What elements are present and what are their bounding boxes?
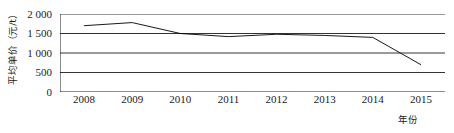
data-series-line [84,23,421,65]
y-axis-tick-label: 1 500 [10,28,52,39]
y-axis-tick-label: 2 000 [10,9,52,20]
x-axis-title: 年份 [398,112,418,126]
x-axis-tick-label: 2009 [107,94,157,105]
x-axis-tick-label: 2014 [348,94,398,105]
x-axis-tick-label: 2011 [203,94,253,105]
x-axis-tick-label: 2015 [396,94,446,105]
x-axis-tick-labels: 20082009201020112012201320142015 [60,94,445,112]
y-axis-tick-label: 500 [10,67,52,78]
line-chart: 平均单价（元/t） 05001 0001 5002 000 2008200920… [0,0,454,133]
y-axis-tick-label: 1 000 [10,48,52,59]
x-axis-tick-label: 2008 [59,94,109,105]
x-axis-tick-label: 2012 [252,94,302,105]
plot-area [60,14,445,92]
x-axis-tick-label: 2010 [155,94,205,105]
gridlines [60,14,445,92]
y-axis-tick-labels: 05001 0001 5002 000 [8,0,52,133]
x-axis-tick-label: 2013 [300,94,350,105]
y-axis-tick-label: 0 [10,87,52,98]
plot-svg [60,14,445,92]
